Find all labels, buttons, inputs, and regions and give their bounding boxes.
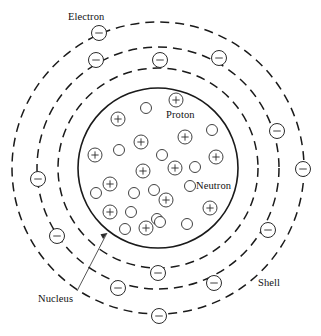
proton-particle [136,164,150,178]
proton-particle [168,161,182,175]
proton-particle [169,93,183,107]
neutron-circle [190,162,201,173]
electron-particle [89,53,104,68]
neutron-circle [185,181,196,192]
electron-particle [153,53,168,68]
neutron-circle [155,217,166,228]
neutron-circle [157,150,168,161]
atom-diagram: Electron Proton Neutron Nucleus Shell [0,0,321,336]
proton-particle [103,177,117,191]
electron-particle [212,51,227,66]
label-shell: Shell [258,278,280,289]
proton-particle [209,150,223,164]
proton-particle [134,135,148,149]
neutron-circle [126,207,137,218]
neutron-circle [129,188,140,199]
label-nucleus: Nucleus [38,294,73,305]
proton-particle [103,205,117,219]
electron-particle [207,276,222,291]
electron-particle [151,266,166,281]
neutron-circle [114,145,125,156]
neutron-circle [149,185,160,196]
electron-particle [111,281,126,296]
neutron-circle [207,125,218,136]
electron-particle [152,309,167,324]
proton-particle [88,148,102,162]
electron-particle [296,162,311,177]
neutron-circle [182,219,193,230]
label-neutron: Neutron [196,181,231,192]
electron-particle [50,229,65,244]
neutron-circle [141,103,152,114]
electron-particle [92,26,107,41]
proton-particle [139,221,153,235]
neutron-circle [120,224,131,235]
electron-particle [270,124,285,139]
proton-particle [159,193,173,207]
label-electron: Electron [68,12,104,23]
proton-particle [203,201,217,215]
electron-particle [31,172,46,187]
neutron-circle [91,188,102,199]
label-proton: Proton [166,110,195,121]
electron-particle [261,223,276,238]
nucleus-leader-arrowhead [101,233,108,239]
proton-particle [111,112,125,126]
proton-particle [178,130,192,144]
